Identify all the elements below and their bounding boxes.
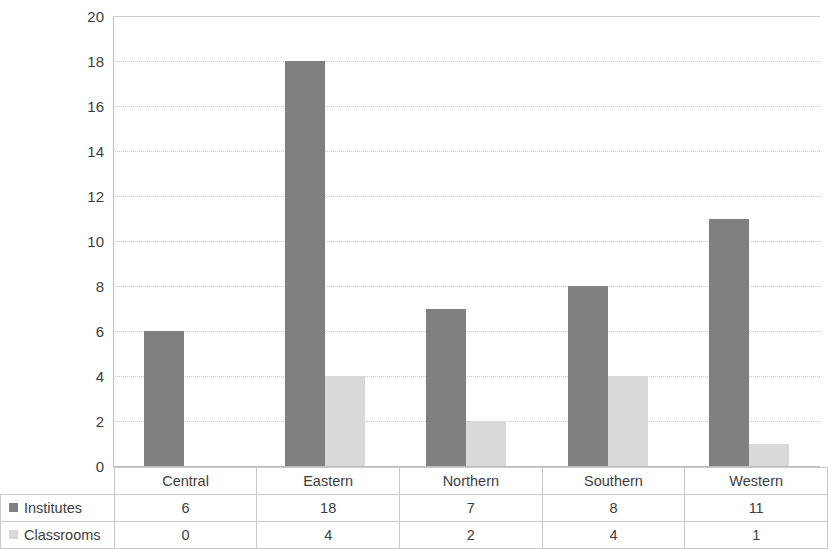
table-cell: 2 xyxy=(400,522,543,549)
table-cell: 4 xyxy=(257,522,400,549)
table-header-row: CentralEasternNorthernSouthernWestern xyxy=(1,468,828,495)
bar-group xyxy=(537,16,678,466)
bar-group xyxy=(113,16,254,466)
bar xyxy=(144,331,184,466)
legend-swatch-icon xyxy=(9,530,18,539)
bar xyxy=(426,309,466,467)
bar xyxy=(749,444,789,467)
table-column-header: Western xyxy=(685,468,828,495)
y-axis-tick-label: 14 xyxy=(4,144,104,159)
table-column-header: Central xyxy=(114,468,257,495)
plot-region: 20181614121086420 xyxy=(0,0,828,468)
plot-area xyxy=(113,16,820,466)
table-column-header: Eastern xyxy=(257,468,400,495)
y-axis-tick-label: 8 xyxy=(4,279,104,294)
table-corner-cell xyxy=(1,468,115,495)
y-axis-tick-label: 2 xyxy=(4,414,104,429)
table-row: Institutes6187811 xyxy=(1,495,828,522)
table-cell: 6 xyxy=(114,495,257,522)
table-series-label: Institutes xyxy=(1,495,115,522)
table-cell: 11 xyxy=(685,495,828,522)
bar xyxy=(709,219,749,467)
series-name: Institutes xyxy=(24,501,82,517)
bar xyxy=(325,376,365,466)
table-cell: 8 xyxy=(542,495,685,522)
data-table-body: CentralEasternNorthernSouthernWesternIns… xyxy=(1,468,828,549)
table-series-label: Classrooms xyxy=(1,522,115,549)
bar xyxy=(466,421,506,466)
bar xyxy=(285,61,325,466)
y-axis-tick-label: 6 xyxy=(4,324,104,339)
table-cell: 0 xyxy=(114,522,257,549)
table-cell: 18 xyxy=(257,495,400,522)
series-name: Classrooms xyxy=(24,528,101,544)
bar xyxy=(608,376,648,466)
table-cell: 1 xyxy=(685,522,828,549)
y-axis-tick-label: 16 xyxy=(4,99,104,114)
y-axis: 20181614121086420 xyxy=(0,0,104,468)
table-column-header: Southern xyxy=(542,468,685,495)
y-axis-tick-label: 4 xyxy=(4,369,104,384)
bar-group xyxy=(254,16,395,466)
table-cell: 7 xyxy=(400,495,543,522)
y-axis-tick-label: 12 xyxy=(4,189,104,204)
legend-swatch-icon xyxy=(9,503,18,512)
chart-data-table: CentralEasternNorthernSouthernWesternIns… xyxy=(0,467,828,549)
y-axis-tick-label: 10 xyxy=(4,234,104,249)
table-cell: 4 xyxy=(542,522,685,549)
table-column-header: Northern xyxy=(400,468,543,495)
y-axis-tick-label: 18 xyxy=(4,54,104,69)
y-axis-tick-label: 20 xyxy=(4,9,104,24)
bar-group xyxy=(679,16,820,466)
bars-layer xyxy=(113,16,820,466)
bar-group xyxy=(396,16,537,466)
table-row: Classrooms04241 xyxy=(1,522,828,549)
bar xyxy=(568,286,608,466)
